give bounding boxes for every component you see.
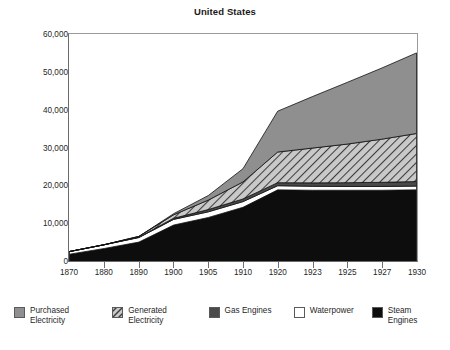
y-tick-label: 0 <box>26 257 68 266</box>
x-tick-mark <box>347 262 348 268</box>
x-tick-mark <box>173 262 174 268</box>
y-tick-label: 40,000 <box>26 105 68 114</box>
x-tick-mark <box>382 262 383 268</box>
stacked-area-plot <box>69 34 417 261</box>
y-tick-label: 20,000 <box>26 181 68 190</box>
x-tick-mark <box>104 262 105 268</box>
legend-label: Generated Electricity <box>128 306 167 325</box>
legend-label: Waterpower <box>310 306 354 316</box>
legend-label: Purchased Electricity <box>30 306 69 325</box>
x-tick-mark <box>139 262 140 268</box>
legend-item: Purchased Electricity <box>14 306 112 325</box>
legend-item: Waterpower <box>294 306 372 318</box>
legend-item: Gas Engines <box>209 306 294 318</box>
x-tick-label: 1930 <box>397 268 437 277</box>
generated-electricity-swatch <box>112 307 123 318</box>
legend-label: Gas Engines <box>225 306 272 316</box>
x-tick-mark <box>313 262 314 268</box>
legend-label: Steam Engines <box>388 306 438 325</box>
purchased-electricity-swatch <box>14 307 25 318</box>
waterpower-swatch <box>294 307 305 318</box>
legend-item: Generated Electricity <box>112 306 208 325</box>
plot-area <box>68 33 418 262</box>
y-tick-label: 10,000 <box>26 219 68 228</box>
x-tick-mark <box>278 262 279 268</box>
chart-figure: United States 010,00020,00030,00040,0005… <box>0 0 450 350</box>
y-axis: 010,00020,00030,00040,00050,00060,000 <box>12 0 68 350</box>
y-tick-label: 60,000 <box>26 30 68 39</box>
y-tick-label: 30,000 <box>26 143 68 152</box>
steam-engines-swatch <box>372 307 383 318</box>
y-tick-label: 50,000 <box>26 67 68 76</box>
gas-engines-swatch <box>209 307 220 318</box>
legend-item: Steam Engines <box>372 306 438 325</box>
x-tick-mark <box>243 262 244 268</box>
chart-legend: Purchased ElectricityGenerated Electrici… <box>14 306 438 334</box>
x-tick-mark <box>208 262 209 268</box>
